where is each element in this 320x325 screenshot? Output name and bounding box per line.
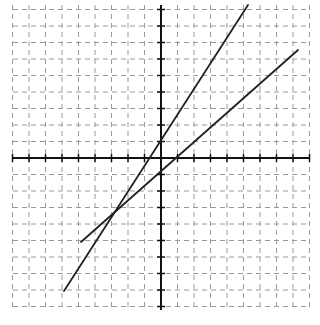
coordinate-plane	[0, 0, 320, 325]
plotted-lines	[64, 5, 298, 291]
plotted-line-2	[81, 50, 298, 242]
plotted-line-1	[64, 5, 248, 291]
